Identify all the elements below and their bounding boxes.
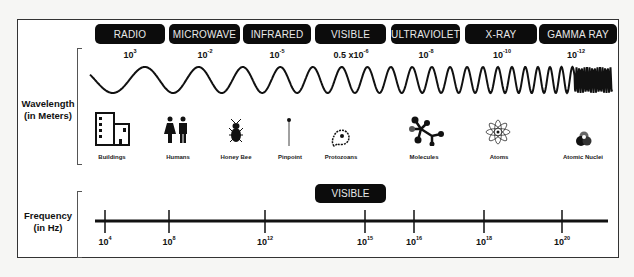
freq-tick-label: 1015 [357,235,373,247]
freq-tick-label: 1016 [406,235,422,247]
freq-tick-label: 1012 [257,235,273,247]
freq-tick-label: 1018 [476,235,492,247]
freq-tick-label: 108 [162,235,175,247]
freq-tick-label: 104 [98,235,111,247]
frequency-axis-line [0,0,634,277]
freq-tick-label: 1020 [554,235,570,247]
